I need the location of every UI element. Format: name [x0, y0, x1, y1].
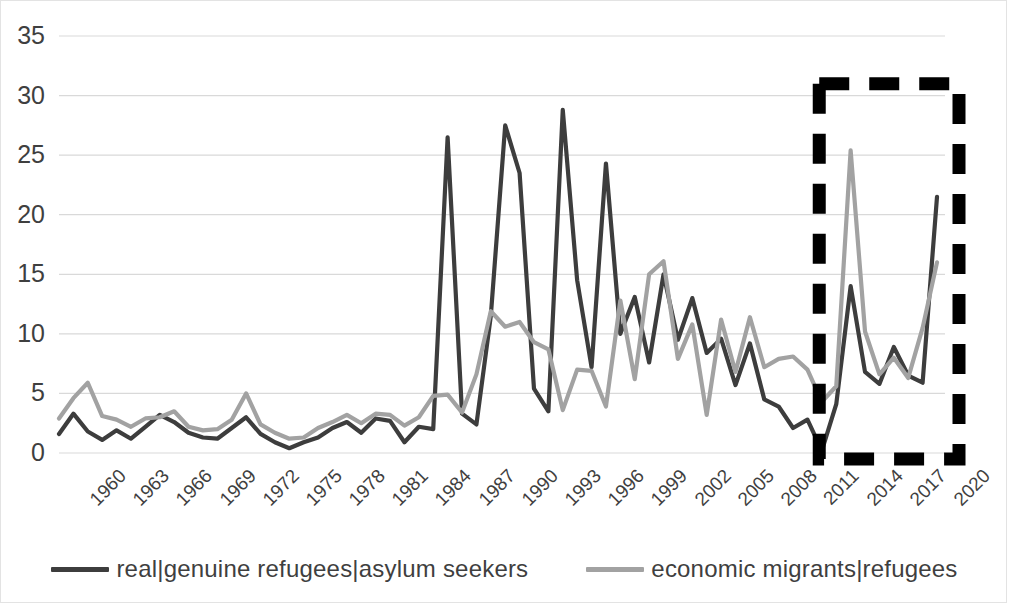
- chart-container: 05101520253035 1960196319661969197219751…: [0, 0, 1007, 603]
- legend-swatch-economic-migrants: [586, 567, 644, 572]
- line-chart-plot: [1, 1, 1008, 604]
- legend-item-real-refugees[interactable]: real|genuine refugees|asylum seekers: [51, 557, 528, 581]
- series-lines: [59, 110, 937, 451]
- y-axis-tick-20: 20: [0, 202, 45, 227]
- y-axis-tick-30: 30: [0, 83, 45, 108]
- legend-label-real-refugees: real|genuine refugees|asylum seekers: [116, 557, 528, 581]
- legend-item-economic-migrants[interactable]: economic migrants|refugees: [586, 557, 957, 581]
- y-axis-tick-35: 35: [0, 23, 45, 48]
- highlight-annotation: [819, 84, 959, 459]
- legend-swatch-real-refugees: [51, 567, 109, 572]
- y-axis-tick-5: 5: [0, 380, 45, 405]
- y-axis-tick-25: 25: [0, 142, 45, 167]
- y-axis-tick-15: 15: [0, 261, 45, 286]
- gridlines: [59, 36, 945, 453]
- series-line-0: [59, 110, 937, 451]
- chart-legend: real|genuine refugees|asylum seekers eco…: [1, 549, 1008, 589]
- legend-label-economic-migrants: economic migrants|refugees: [651, 557, 957, 581]
- y-axis-tick-0: 0: [0, 440, 45, 465]
- y-axis-tick-10: 10: [0, 321, 45, 346]
- highlight-box: [819, 84, 959, 459]
